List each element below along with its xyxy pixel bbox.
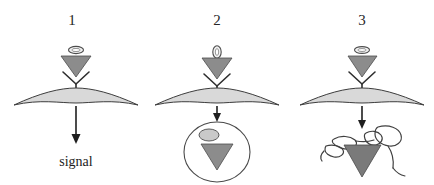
- curved-membrane-icon: [300, 88, 424, 105]
- panel-3-number: 3: [358, 12, 366, 28]
- triangle-carrier-icon: [201, 144, 233, 170]
- down-arrow-head-icon: [358, 120, 366, 129]
- curved-membrane-icon: [155, 88, 279, 105]
- down-arrow-head-icon: [72, 134, 81, 144]
- ligand-ring-inner-icon: [215, 49, 218, 56]
- ligand-ring-inner-icon: [72, 48, 80, 51]
- diagram-canvas: 1 signal 2: [0, 0, 434, 185]
- down-arrow-head-icon: [213, 113, 221, 122]
- ligand-filled-icon: [199, 129, 219, 141]
- signaling-diagram-figure: 1 signal 2: [0, 0, 434, 185]
- panel-3: 3: [300, 12, 424, 177]
- panel-2: 2: [155, 12, 279, 182]
- ligand-ring-inner-icon: [358, 49, 366, 52]
- triangle-carrier-icon: [344, 145, 381, 177]
- panel-2-number: 2: [213, 12, 221, 28]
- signal-label: signal: [59, 154, 93, 169]
- curved-membrane-icon: [14, 88, 138, 105]
- panel-1: 1 signal: [14, 12, 138, 169]
- panel-1-number: 1: [68, 12, 76, 28]
